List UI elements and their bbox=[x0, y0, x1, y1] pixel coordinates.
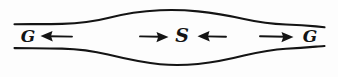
figure-container: G S G bbox=[0, 0, 338, 77]
label-center-S: S bbox=[175, 24, 189, 46]
arrow-left-outward-head bbox=[41, 31, 53, 41]
hand-drawn-flow-diagram: G S G bbox=[0, 0, 338, 77]
arrow-right-outward-head bbox=[281, 32, 293, 42]
arrow-center-right-inward bbox=[198, 31, 227, 41]
arrow-center-left-inward bbox=[140, 32, 169, 42]
arrow-center-left-inward-head bbox=[156, 32, 168, 42]
arrow-right-outward bbox=[260, 32, 294, 42]
label-right-G: G bbox=[303, 26, 318, 46]
arrow-left-outward bbox=[41, 31, 73, 41]
arrow-center-right-inward-head bbox=[198, 31, 210, 41]
upper-boundary-curve bbox=[15, 10, 325, 27]
arrow-right-outward-shaft bbox=[260, 36, 285, 37]
lower-boundary-curve bbox=[15, 46, 325, 65]
label-left-G: G bbox=[21, 26, 36, 46]
